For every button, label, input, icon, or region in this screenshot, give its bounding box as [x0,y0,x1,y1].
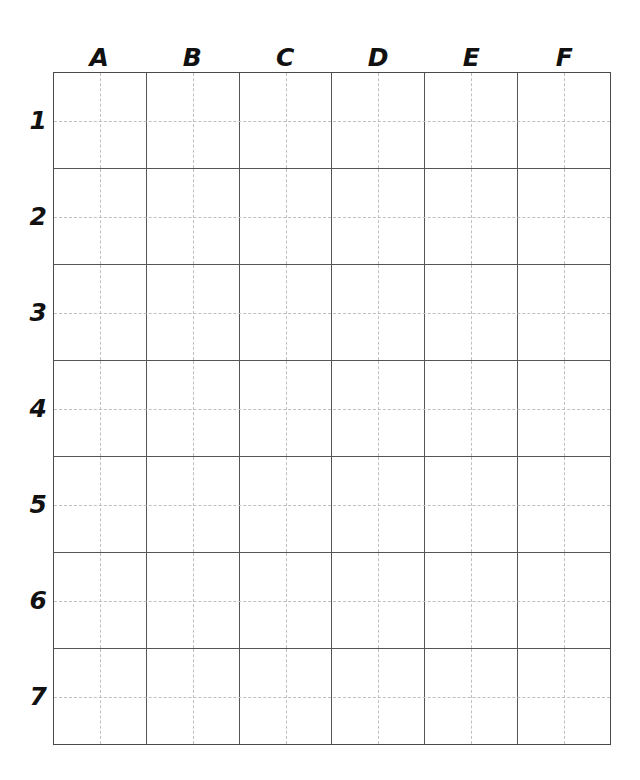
grid-cell-a7[interactable] [54,649,147,744]
column-header-e: E [425,34,518,70]
grid-cell-f2[interactable] [518,169,610,264]
row-header-4: 4 [14,360,50,456]
grid-cell-f6[interactable] [518,553,610,648]
grid-cell-e4[interactable] [425,361,518,456]
column-header-f: F [518,34,611,70]
grid-cell-f3[interactable] [518,265,610,360]
table-row [54,649,610,744]
grid-cell-c1[interactable] [240,73,333,168]
grid-cell-e5[interactable] [425,457,518,552]
grid-cell-f4[interactable] [518,361,610,456]
row-header-2: 2 [14,168,50,264]
grid-cell-d5[interactable] [332,457,425,552]
column-header-row: A B C D E F [53,34,611,70]
row-header-column: 1 2 3 4 5 6 7 [14,72,50,745]
table-row [54,361,610,457]
grid-cell-b7[interactable] [147,649,240,744]
row-header-3: 3 [14,264,50,360]
grid-cell-c3[interactable] [240,265,333,360]
column-header-a: A [53,34,146,70]
grid-cell-d4[interactable] [332,361,425,456]
grid-cell-c5[interactable] [240,457,333,552]
column-header-d: D [332,34,425,70]
table-row [54,553,610,649]
grid-cell-f5[interactable] [518,457,610,552]
grid-cell-b1[interactable] [147,73,240,168]
grid-cell-e7[interactable] [425,649,518,744]
grid-cell-f1[interactable] [518,73,610,168]
row-header-7: 7 [14,649,50,745]
grid-cell-d6[interactable] [332,553,425,648]
table-row [54,73,610,169]
grid-cell-a4[interactable] [54,361,147,456]
grid-cell-c7[interactable] [240,649,333,744]
table-row [54,265,610,361]
grid-cell-b3[interactable] [147,265,240,360]
grid-cell-d7[interactable] [332,649,425,744]
grid-cell-f7[interactable] [518,649,610,744]
grid-cell-e1[interactable] [425,73,518,168]
grid-cell-e6[interactable] [425,553,518,648]
table-row [54,169,610,265]
row-header-5: 5 [14,457,50,553]
grid-cell-c6[interactable] [240,553,333,648]
grid-cell-a2[interactable] [54,169,147,264]
grid-sheet: A B C D E F 1 2 3 4 5 6 7 [0,0,640,780]
grid-cell-d3[interactable] [332,265,425,360]
grid-cell-b5[interactable] [147,457,240,552]
row-header-1: 1 [14,72,50,168]
column-header-c: C [239,34,332,70]
row-header-6: 6 [14,553,50,649]
grid-rows [54,73,610,744]
grid-cell-a3[interactable] [54,265,147,360]
grid-cell-c4[interactable] [240,361,333,456]
grid-cell-b6[interactable] [147,553,240,648]
column-header-b: B [146,34,239,70]
grid-cell-a5[interactable] [54,457,147,552]
grid-cell-b4[interactable] [147,361,240,456]
grid-cell-e3[interactable] [425,265,518,360]
grid-body [53,72,611,745]
grid-cell-b2[interactable] [147,169,240,264]
grid-cell-c2[interactable] [240,169,333,264]
grid-cell-a6[interactable] [54,553,147,648]
grid-cell-e2[interactable] [425,169,518,264]
grid-cell-a1[interactable] [54,73,147,168]
table-row [54,457,610,553]
grid-cell-d2[interactable] [332,169,425,264]
grid-cell-d1[interactable] [332,73,425,168]
